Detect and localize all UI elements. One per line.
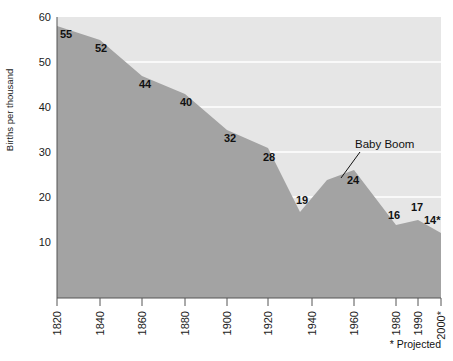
y-axis-title: Births per thousand [4,69,15,151]
ytick-label-30: 30 [39,146,51,158]
xtick-label-1880: 1880 [179,311,191,335]
point-label-2000: 14* [424,214,441,226]
xtick-label-1940: 1940 [306,311,318,335]
xtick-label-1900: 1900 [221,311,233,335]
point-label-1990: 17 [411,201,423,213]
footnote-projected: * Projected [390,338,442,350]
point-label-1900: 32 [224,132,236,144]
point-label-1920: 28 [263,151,275,163]
ytick-label-50: 50 [39,56,51,68]
ytick-label-20: 20 [39,191,51,203]
point-label-1980: 16 [388,209,400,221]
chart-canvas: 60 50 40 30 20 10 Births per thousand 18… [0,0,453,361]
y-axis-tick-labels: 60 50 40 30 20 10 [39,11,51,248]
point-label-1860: 44 [139,78,152,90]
point-label-1935: 19 [296,194,308,206]
xtick-label-1840: 1840 [94,311,106,335]
xtick-label-1920: 1920 [262,311,274,335]
baby-boom-label: Baby Boom [355,138,414,150]
ytick-label-10: 10 [39,236,51,248]
xtick-label-1860: 1860 [136,311,148,335]
point-label-1840: 52 [95,42,107,54]
xtick-label-1990: 1990 [412,311,424,335]
point-label-1820: 55 [60,28,72,40]
ytick-label-40: 40 [39,101,51,113]
point-label-1880: 40 [180,96,192,108]
xtick-label-1820: 1820 [51,311,63,335]
xtick-label-1960: 1960 [348,311,360,335]
x-axis-tick-labels: 1820 1840 1860 1880 1900 1920 1940 1960 … [51,310,447,339]
xtick-label-1980: 1980 [390,311,402,335]
birth-rate-area-chart: 60 50 40 30 20 10 Births per thousand 18… [0,0,453,361]
x-axis-ticks [57,298,441,306]
ytick-label-60: 60 [39,11,51,23]
point-label-1960: 24 [347,174,360,186]
xtick-label-2000: 2000* [435,310,447,339]
